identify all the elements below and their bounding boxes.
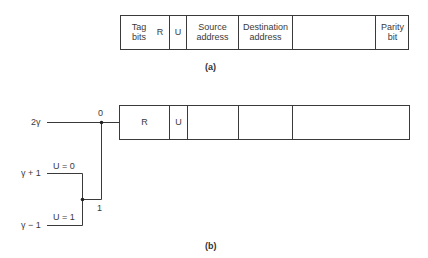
- cell-r: R: [153, 27, 167, 37]
- cell-tag-bits: Tag bits: [122, 22, 156, 42]
- cell-source-address: Source address: [187, 22, 238, 42]
- switch-wiring: [47, 123, 120, 226]
- switch-label-zero: 0: [98, 108, 103, 118]
- cell-parity-bit: Parity bit: [376, 22, 409, 42]
- caption-a: (a): [205, 62, 216, 72]
- cell-u: U: [170, 27, 186, 37]
- junction-dot-bottom: [81, 198, 85, 202]
- switch-label-one: 1: [97, 203, 102, 213]
- condition-u-equals-1: U = 1: [53, 212, 75, 222]
- condition-u-equals-0: U = 0: [53, 161, 75, 171]
- cell-destination-address: Destination address: [238, 22, 293, 42]
- input-gamma-plus-1: γ + 1: [21, 168, 41, 178]
- junction-dot-top: [100, 121, 104, 125]
- register-cell-u: U: [170, 117, 187, 127]
- input-gamma-minus-1: γ − 1: [21, 220, 41, 230]
- register-cell-r: R: [120, 117, 169, 127]
- input-2gamma: 2γ: [31, 117, 41, 127]
- caption-b: (b): [205, 241, 217, 251]
